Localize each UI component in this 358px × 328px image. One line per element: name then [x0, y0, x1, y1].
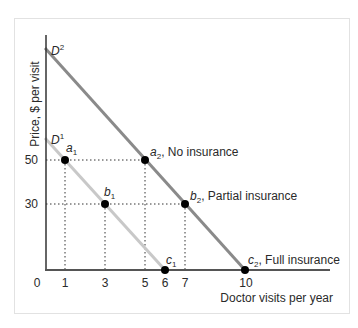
label-a2: a2, No insurance — [150, 145, 239, 161]
point-a1 — [61, 156, 69, 164]
point-c1 — [161, 266, 169, 274]
label-c1: c1 — [166, 253, 177, 269]
label-d2: D2 — [51, 43, 65, 58]
label-b1: b1 — [104, 185, 116, 201]
x-tick-5: 5 — [142, 276, 149, 290]
x-tick-10: 10 — [239, 276, 253, 290]
label-b2: b2, Partial insurance — [190, 189, 298, 205]
point-b2 — [181, 200, 189, 208]
y-tick-30: 30 — [25, 197, 39, 211]
x-axis-title: Doctor visits per year — [220, 291, 333, 305]
y-axis-title: Price, $ per visit — [28, 61, 42, 147]
point-b1 — [101, 200, 109, 208]
point-c2 — [241, 266, 249, 274]
x-tick-0: 0 — [34, 276, 41, 290]
x-tick-6: 6 — [162, 276, 169, 290]
data-points — [61, 156, 249, 274]
x-tick-3: 3 — [102, 276, 109, 290]
label-d1: D1 — [51, 132, 65, 147]
point-a2 — [141, 156, 149, 164]
label-a1: a1 — [66, 141, 78, 157]
x-tick-1: 1 — [62, 276, 69, 290]
y-tick-50: 50 — [25, 153, 39, 167]
x-tick-7: 7 — [182, 276, 189, 290]
label-c2: c2, Full insurance — [248, 253, 340, 269]
demand-chart: Price, $ per visit D2 D1 a1 b1 c1 a2, No… — [0, 0, 358, 328]
